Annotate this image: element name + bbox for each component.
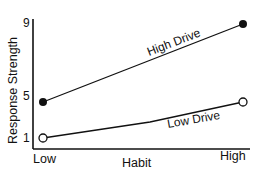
- high-drive-line: [43, 24, 243, 102]
- y-axis-title: Response Strength: [6, 37, 20, 144]
- high-drive-point-low: [39, 98, 47, 106]
- low-drive-point-low: [39, 134, 47, 142]
- low-drive-point-high: [239, 98, 247, 106]
- high-drive-label: High Drive: [145, 26, 203, 59]
- high-drive-point-high: [239, 20, 247, 28]
- x-tick-low: Low: [33, 152, 57, 166]
- x-tick-high: High: [220, 149, 246, 163]
- chart: 9 5 1 Response Strength Low Habit High H…: [0, 0, 261, 178]
- y-tick-9: 9: [23, 16, 30, 30]
- x-axis-title: Habit: [122, 156, 152, 170]
- low-drive-label: Low Drive: [166, 108, 221, 131]
- y-tick-1: 1: [23, 131, 30, 145]
- y-tick-5: 5: [23, 89, 30, 103]
